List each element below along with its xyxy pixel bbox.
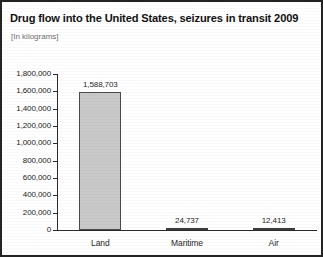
y-axis-tick bbox=[53, 213, 57, 214]
y-axis-tick bbox=[53, 91, 57, 92]
y-axis-line bbox=[57, 74, 58, 230]
bar bbox=[253, 228, 295, 231]
y-axis-tick bbox=[53, 161, 57, 162]
y-axis-tick bbox=[53, 109, 57, 110]
y-axis-tick bbox=[53, 230, 57, 231]
y-axis-tick-label: 1,200,000 bbox=[5, 122, 51, 130]
chart-title: Drug flow into the United States, seizur… bbox=[10, 12, 304, 24]
y-axis-tick-label: 1,600,000 bbox=[5, 87, 51, 95]
bar-value-label: 12,413 bbox=[234, 216, 314, 225]
x-axis-category-label: Land bbox=[60, 238, 140, 248]
y-axis-tick-label: 1,800,000 bbox=[5, 70, 51, 78]
y-axis-tick bbox=[53, 74, 57, 75]
y-axis-tick-label: 200,000 bbox=[5, 209, 51, 217]
y-axis-tick bbox=[53, 126, 57, 127]
y-axis-tick-label: 1,000,000 bbox=[5, 139, 51, 147]
y-axis-tick-label: 800,000 bbox=[5, 157, 51, 165]
chart-subtitle: [In kilograms] bbox=[11, 32, 59, 41]
y-axis-tick-label: 600,000 bbox=[5, 174, 51, 182]
y-axis-tick bbox=[53, 143, 57, 144]
bar-value-label: 24,737 bbox=[147, 216, 227, 225]
x-axis-category-label: Air bbox=[234, 238, 314, 248]
plot-area: 0200,000400,000600,000800,0001,000,0001,… bbox=[57, 74, 317, 230]
bar bbox=[79, 92, 121, 230]
y-axis-tick-label: 1,400,000 bbox=[5, 105, 51, 113]
y-axis-tick-label: 0 bbox=[5, 226, 51, 234]
y-axis-tick bbox=[53, 195, 57, 196]
y-axis-tick bbox=[53, 178, 57, 179]
x-axis-category-label: Maritime bbox=[147, 238, 227, 248]
bar-value-label: 1,588,703 bbox=[60, 80, 140, 89]
bar bbox=[166, 228, 208, 231]
chart-figure: Drug flow into the United States, seizur… bbox=[0, 0, 323, 257]
x-axis-line bbox=[57, 230, 317, 231]
y-axis-tick-label: 400,000 bbox=[5, 191, 51, 199]
